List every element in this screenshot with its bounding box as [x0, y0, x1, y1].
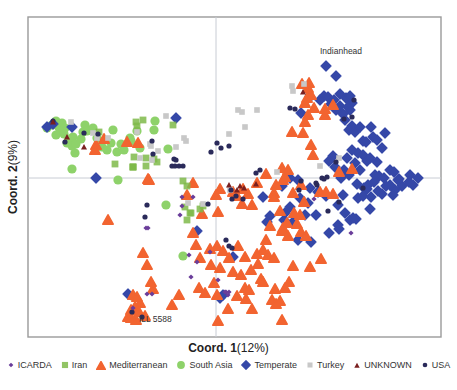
- x-axis-title: Coord. 1(12%): [0, 341, 457, 355]
- data-point-turkey: [183, 138, 189, 144]
- y-axis-title: Coord. 2(9%): [6, 122, 20, 232]
- data-point-turkey: [274, 169, 280, 175]
- data-point-south-asia: [70, 148, 79, 157]
- legend-label: Turkey: [317, 360, 344, 370]
- data-point-iran: [131, 154, 138, 161]
- data-point-turkey: [242, 124, 248, 130]
- x-axis-title-percent: (12%): [237, 341, 269, 355]
- data-point-iran: [134, 123, 141, 130]
- data-point-usa: [81, 130, 86, 135]
- data-point-turkey: [289, 83, 295, 89]
- data-point-usa: [226, 143, 231, 148]
- legend-item-turkey: Turkey: [306, 360, 344, 370]
- circle-marker-icon: [176, 360, 186, 370]
- data-point-usa: [341, 116, 346, 121]
- data-point-usa: [142, 214, 147, 219]
- legend-label: Iran: [72, 360, 88, 370]
- legend-item-south-asia: South Asia: [176, 360, 232, 370]
- data-point-usa: [62, 139, 67, 144]
- scatter-plot: [0, 0, 457, 390]
- data-point-south-asia: [113, 175, 122, 184]
- data-point-turkey: [226, 131, 232, 137]
- data-point-usa: [233, 193, 238, 198]
- data-point-usa: [149, 138, 154, 143]
- data-point-turkey: [163, 113, 169, 119]
- diamond-marker-icon: [7, 361, 15, 369]
- data-point-turkey: [137, 155, 143, 161]
- data-point-iran: [184, 183, 191, 190]
- legend-label: Mediterranean: [109, 360, 167, 370]
- data-point-usa: [218, 145, 223, 150]
- y-axis-title-percent: (9%): [6, 140, 20, 165]
- data-point-turkey: [185, 200, 191, 206]
- data-point-usa: [351, 97, 356, 102]
- square-marker-icon: [61, 361, 69, 369]
- data-point-iran: [184, 217, 191, 224]
- square-marker-icon: [306, 361, 314, 369]
- annotation-indianhead: Indianhead: [320, 46, 362, 56]
- data-point-turkey: [301, 81, 307, 87]
- legend-item-iran: Iran: [61, 360, 88, 370]
- data-point-turkey: [239, 109, 245, 115]
- x-axis-title-main: Coord. 1: [188, 341, 237, 355]
- data-point-south-asia: [150, 116, 159, 125]
- data-point-usa: [298, 178, 303, 183]
- legend-item-icarda: ICARDA: [7, 360, 52, 370]
- legend-label: South Asia: [189, 360, 232, 370]
- data-point-south-asia: [161, 200, 170, 209]
- data-point-iran: [143, 163, 150, 170]
- legend: ICARDA Iran Mediterranean South Asia Tem…: [0, 360, 457, 370]
- data-point-usa: [208, 149, 213, 154]
- data-point-turkey: [149, 157, 155, 163]
- data-point-usa: [336, 199, 341, 204]
- triangle-marker-icon: [353, 361, 361, 369]
- data-point-south-asia: [163, 144, 172, 153]
- legend-item-unknown: UNKNOWN: [353, 360, 412, 370]
- data-point-south-asia: [178, 251, 187, 260]
- data-point-usa: [349, 114, 354, 119]
- triangle-marker-icon: [96, 361, 106, 370]
- legend-item-temperate: Temperate: [241, 360, 297, 370]
- legend-label: USA: [432, 360, 451, 370]
- data-point-turkey: [173, 144, 179, 150]
- data-point-turkey: [134, 129, 140, 135]
- data-point-turkey: [68, 119, 74, 125]
- data-point-south-asia: [149, 125, 158, 134]
- data-point-usa: [214, 140, 219, 145]
- data-point-iran: [112, 161, 119, 168]
- data-point-turkey: [200, 201, 206, 207]
- data-point-usa: [321, 176, 326, 181]
- data-point-usa: [333, 159, 338, 164]
- data-point-usa: [173, 157, 178, 162]
- data-point-usa: [205, 201, 210, 206]
- data-point-usa: [360, 185, 365, 190]
- data-point-usa: [325, 208, 330, 213]
- data-point-turkey: [254, 107, 260, 113]
- data-point-turkey: [105, 135, 111, 141]
- data-point-iran: [187, 210, 194, 217]
- legend-label: Temperate: [254, 360, 297, 370]
- data-point-usa: [287, 105, 292, 110]
- data-point-south-asia: [51, 130, 60, 139]
- data-point-iran: [140, 117, 147, 124]
- legend-item-usa: USA: [421, 360, 451, 370]
- legend-item-mediterranean: Mediterranean: [96, 360, 167, 370]
- legend-label: UNKNOWN: [364, 360, 412, 370]
- data-point-usa: [180, 163, 185, 168]
- data-point-turkey: [90, 130, 96, 136]
- data-point-usa: [144, 202, 149, 207]
- y-axis-title-main: Coord. 2: [6, 165, 20, 214]
- data-point-iran: [143, 155, 150, 162]
- data-point-south-asia: [108, 125, 117, 134]
- legend-label: ICARDA: [18, 360, 52, 370]
- annotation-ill-5588: ILL 5588: [139, 314, 172, 324]
- data-point-turkey: [155, 148, 161, 154]
- circle-marker-icon: [421, 361, 429, 369]
- data-point-usa: [229, 245, 234, 250]
- data-point-usa: [314, 182, 319, 187]
- data-point-usa: [240, 196, 245, 201]
- data-point-usa: [257, 167, 262, 172]
- data-point-usa: [296, 187, 301, 192]
- data-point-iran: [170, 122, 177, 129]
- data-point-usa: [95, 131, 100, 136]
